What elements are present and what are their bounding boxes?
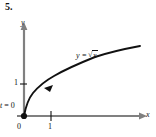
y-axis-label: y	[21, 18, 25, 27]
start-parameter-value: = 0	[2, 101, 15, 110]
figure-container: 5. y x 1 1 0 t = 0 y = x	[0, 0, 156, 137]
start-point-dot	[21, 113, 27, 119]
start-parameter-label: t = 0	[0, 101, 15, 110]
curve-direction-arrow-icon	[44, 85, 53, 92]
curve-equation-label: y = x	[76, 50, 98, 60]
x-axis-label: x	[146, 110, 150, 119]
square-root-icon: x	[89, 50, 98, 60]
curve-equation-radicand: x	[92, 50, 98, 60]
origin-label: 0	[17, 122, 21, 131]
y-axis-tick-label-1: 1	[14, 78, 18, 87]
x-axis-tick-label-1: 1	[48, 122, 52, 131]
